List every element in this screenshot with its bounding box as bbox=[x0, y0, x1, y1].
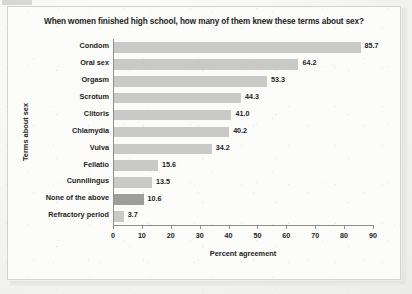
category-label: Clitoris bbox=[84, 109, 109, 118]
y-axis-title: Terms about sex bbox=[21, 103, 30, 161]
value-label: 13.5 bbox=[156, 177, 170, 186]
x-axis-tick-label: 70 bbox=[311, 231, 319, 240]
category-label: Oral sex bbox=[80, 58, 109, 67]
bar-chart: When women finished high school, how man… bbox=[7, 6, 401, 280]
category-label: Chlamydia bbox=[72, 126, 109, 135]
x-axis-tick-label: 10 bbox=[138, 231, 146, 240]
x-axis-tick bbox=[229, 226, 230, 229]
value-label: 3.7 bbox=[128, 210, 138, 219]
x-axis-tick bbox=[344, 226, 345, 229]
x-axis-tick bbox=[286, 226, 287, 229]
plot-area: Condom85.7Oral sex64.2Orgasm53.3Scrotum4… bbox=[113, 39, 373, 225]
bar-row: Fellatio15.6 bbox=[113, 157, 373, 174]
bar-row: Cunnilingus13.5 bbox=[113, 174, 373, 191]
bar bbox=[113, 76, 267, 87]
bar bbox=[113, 42, 361, 53]
bar-row: Oral sex64.2 bbox=[113, 56, 373, 73]
category-label: Fellatio bbox=[83, 160, 109, 169]
bar-row: Vulva34.2 bbox=[113, 140, 373, 157]
bar-row: Condom85.7 bbox=[113, 39, 373, 56]
x-axis-tick-label: 60 bbox=[282, 231, 290, 240]
bar bbox=[113, 211, 124, 222]
bar bbox=[113, 59, 298, 70]
x-axis-tick-label: 0 bbox=[111, 231, 115, 240]
x-axis-tick-label: 30 bbox=[196, 231, 204, 240]
bar-row: None of the above10.6 bbox=[113, 191, 373, 208]
bar bbox=[113, 110, 231, 121]
bar-row: Refractory period3.7 bbox=[113, 208, 373, 225]
value-label: 53.3 bbox=[271, 75, 285, 84]
bar bbox=[113, 93, 241, 104]
bar bbox=[113, 144, 212, 155]
category-label: None of the above bbox=[46, 193, 109, 202]
value-label: 15.6 bbox=[162, 160, 176, 169]
category-label: Condom bbox=[79, 41, 109, 50]
value-label: 85.7 bbox=[365, 41, 379, 50]
x-axis-tick bbox=[171, 226, 172, 229]
bar-row: Orgasm53.3 bbox=[113, 73, 373, 90]
x-axis-line bbox=[113, 225, 374, 226]
scanned-page: When women finished high school, how man… bbox=[0, 0, 412, 294]
y-axis-line bbox=[113, 39, 114, 226]
x-axis-tick bbox=[315, 226, 316, 229]
category-label: Orgasm bbox=[81, 75, 109, 84]
x-axis-title: Percent agreement bbox=[113, 249, 373, 258]
value-label: 40.2 bbox=[233, 126, 247, 135]
value-label: 64.2 bbox=[302, 58, 316, 67]
x-axis-tick-label: 80 bbox=[340, 231, 348, 240]
page-shadow-bottom bbox=[10, 281, 402, 286]
category-label: Refractory period bbox=[48, 210, 109, 219]
value-label: 10.6 bbox=[148, 194, 162, 203]
value-label: 44.3 bbox=[245, 92, 259, 101]
bar-row: Scrotum44.3 bbox=[113, 90, 373, 107]
x-axis-tick-label: 20 bbox=[167, 231, 175, 240]
page-shadow-right bbox=[402, 8, 408, 284]
page-corner-artifact bbox=[2, 0, 32, 5]
x-axis-tick-label: 50 bbox=[253, 231, 261, 240]
category-label: Scrotum bbox=[79, 92, 109, 101]
x-axis-tick-label: 40 bbox=[225, 231, 233, 240]
bar bbox=[113, 127, 229, 138]
x-axis-tick bbox=[142, 226, 143, 229]
chart-title: When women finished high school, how man… bbox=[7, 17, 401, 26]
bar bbox=[113, 194, 144, 205]
bar-row: Chlamydia40.2 bbox=[113, 124, 373, 141]
x-axis-tick bbox=[200, 226, 201, 229]
value-label: 34.2 bbox=[216, 143, 230, 152]
bar-row: Clitoris41.0 bbox=[113, 107, 373, 124]
bar bbox=[113, 160, 158, 171]
x-axis-tick bbox=[373, 226, 374, 229]
category-label: Vulva bbox=[90, 143, 109, 152]
x-axis-tick bbox=[257, 226, 258, 229]
x-axis-tick bbox=[113, 226, 114, 229]
value-label: 41.0 bbox=[235, 109, 249, 118]
category-label: Cunnilingus bbox=[67, 176, 109, 185]
bar bbox=[113, 177, 152, 188]
x-axis-tick-label: 90 bbox=[369, 231, 377, 240]
